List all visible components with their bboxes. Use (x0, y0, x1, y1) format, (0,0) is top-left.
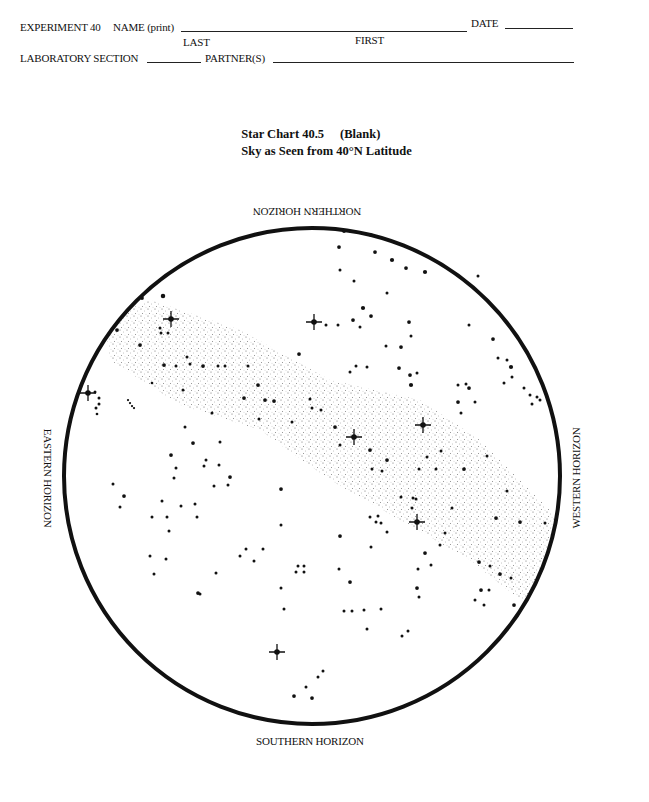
star (385, 458, 389, 462)
star (404, 266, 408, 270)
star (166, 516, 169, 519)
star (474, 599, 477, 602)
star (317, 676, 320, 679)
star (477, 560, 481, 564)
star (415, 498, 418, 501)
star (381, 470, 384, 473)
star (228, 475, 232, 479)
star (339, 269, 342, 272)
star (386, 531, 389, 534)
star (363, 609, 366, 612)
star (488, 589, 491, 592)
star (96, 413, 99, 416)
star (451, 507, 454, 510)
star (151, 516, 154, 519)
star (380, 608, 383, 611)
star (325, 324, 328, 327)
star (444, 532, 447, 535)
star (215, 572, 218, 575)
star (412, 497, 415, 500)
star (211, 412, 214, 415)
star (456, 400, 460, 404)
star (161, 294, 166, 299)
star (400, 496, 403, 499)
star (283, 608, 286, 611)
star (182, 389, 185, 392)
star (98, 403, 101, 406)
star (486, 455, 489, 458)
star (280, 587, 283, 590)
star (353, 280, 356, 283)
star (149, 555, 152, 558)
star (430, 564, 433, 567)
star (506, 490, 509, 493)
star (162, 363, 166, 367)
star (151, 382, 154, 385)
star (263, 398, 267, 402)
star (297, 352, 301, 356)
star (544, 522, 547, 525)
star (440, 450, 443, 453)
star (191, 441, 195, 445)
star (494, 516, 498, 520)
star (385, 345, 388, 348)
star (498, 572, 502, 576)
star (370, 546, 373, 549)
star (338, 534, 342, 538)
star (460, 412, 463, 415)
star (201, 364, 205, 368)
star (213, 485, 216, 488)
star (483, 604, 486, 607)
star (98, 397, 101, 400)
star (253, 560, 256, 563)
southern-horizon-label: SOUTHERN HORIZON (256, 735, 364, 747)
star (168, 530, 171, 533)
star (497, 357, 500, 360)
star (474, 401, 477, 404)
star (217, 365, 220, 368)
star (194, 503, 197, 506)
star (224, 365, 227, 368)
star (245, 548, 248, 551)
star (359, 326, 362, 329)
star (127, 399, 129, 401)
star (175, 365, 178, 368)
star (373, 250, 377, 254)
star (311, 407, 314, 410)
star (411, 507, 414, 510)
star (371, 468, 374, 471)
star (351, 318, 355, 322)
star (343, 610, 346, 613)
star (348, 580, 352, 584)
star (380, 522, 383, 525)
star (417, 568, 420, 571)
star (291, 421, 294, 424)
star (115, 328, 119, 332)
star (272, 399, 276, 403)
star (368, 448, 372, 452)
star (390, 258, 394, 262)
star (247, 365, 250, 368)
star (518, 520, 522, 524)
star (401, 635, 404, 638)
star (322, 670, 325, 673)
milky-way-band (105, 300, 560, 600)
star (435, 468, 438, 471)
star (242, 396, 246, 400)
star (386, 292, 389, 295)
star (351, 610, 354, 613)
star (256, 383, 260, 387)
star (355, 365, 358, 368)
star (510, 577, 513, 580)
star (338, 568, 341, 571)
star (465, 383, 468, 386)
star (423, 551, 427, 555)
star (467, 386, 471, 390)
star (153, 573, 156, 576)
bright-star-icon (269, 644, 285, 660)
star (112, 483, 115, 486)
star (309, 398, 312, 401)
star (320, 409, 323, 412)
star (462, 467, 466, 471)
star (511, 376, 514, 379)
